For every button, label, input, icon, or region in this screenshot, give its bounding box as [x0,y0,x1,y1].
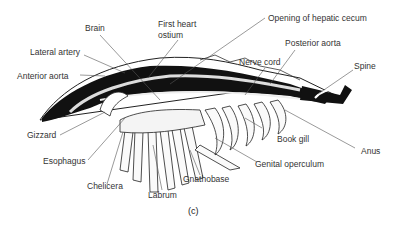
label-esophagus: Esophagus [43,157,86,166]
label-brain: Brain [85,24,105,33]
label-first-heart-ostium-line1: First heart [158,20,196,29]
label-nerve-cord: Nerve cord [239,58,281,67]
label-first-heart-ostium-line2: ostium [158,31,183,40]
label-posterior-aorta: Posterior aorta [285,39,341,48]
label-genital-operculum: Genital operculum [255,160,324,169]
anatomy-figure: Brain First heart ostium Opening of hepa… [0,0,396,229]
label-labrum: Labrum [148,191,177,200]
label-gizzard: Gizzard [27,131,56,140]
label-chelicera: Chelicera [87,182,123,191]
label-gnathobase: Gnathobase [183,175,229,184]
label-book-gill: Book gill [277,135,309,144]
horseshoe-crab-drawing [0,0,396,229]
figure-caption: (c) [188,206,199,216]
label-anus: Anus [361,147,380,156]
label-lateral-artery: Lateral artery [30,48,80,57]
label-anterior-aorta: Anterior aorta [17,72,69,81]
label-spine: Spine [354,62,376,71]
label-opening-hepatic-cecum: Opening of hepatic cecum [268,14,367,23]
